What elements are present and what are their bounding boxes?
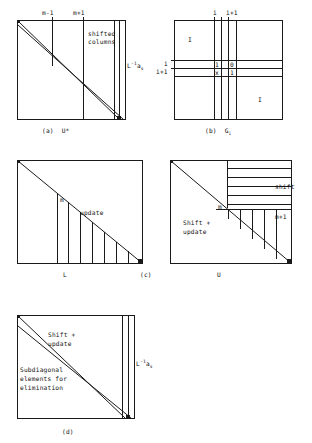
panel-d-corner-marker-br [126,415,130,419]
panel-d-caption: (d) [62,428,74,435]
panel-d-label-subdiagonal-1: Subdiagonal [20,366,63,374]
panel-d-label-shift-update-2: update [48,340,72,348]
panel-d-linv-subscript: s [150,364,153,369]
panel-d-label-linv-as: L-1as [136,358,153,371]
panel-d-label-subdiagonal-3: elimination [20,384,63,392]
panel-d-label-subdiagonal-2: elements for [20,375,67,383]
figure-container: m-1 m+1 shifted columns L-1as (a) U* [0,0,312,443]
panel-d-corner-marker-tl [17,315,20,318]
panel-d-label-shift-update-1: Shift + [48,331,75,339]
